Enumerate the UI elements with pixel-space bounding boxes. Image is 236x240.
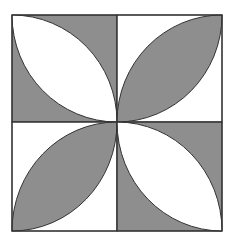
quadrant-bottom-right xyxy=(117,122,222,231)
quadrant-top-right xyxy=(117,15,222,122)
quadrant-bottom-left xyxy=(12,122,117,231)
quadrant-lens-figure xyxy=(0,0,236,240)
quadrant-top-left xyxy=(12,15,117,122)
